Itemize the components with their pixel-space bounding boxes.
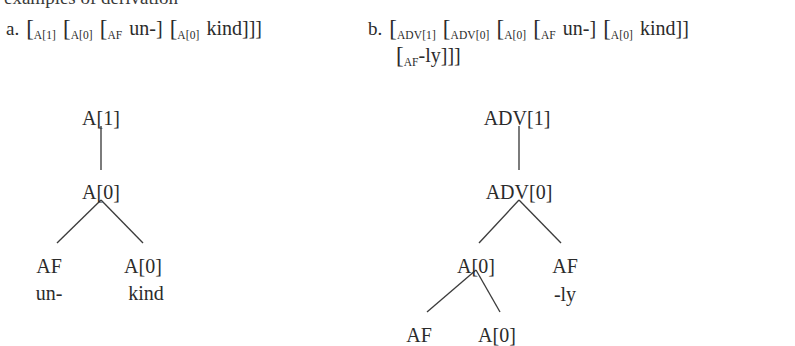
bracket-subscript-label: A[0]	[611, 29, 633, 41]
item-label-a: a.	[6, 18, 19, 39]
tree-branch-line	[519, 200, 561, 243]
open-bracket: [	[389, 16, 397, 41]
tree-node-b-af-ly: AF	[552, 256, 578, 276]
tree-branch-line	[57, 200, 101, 243]
tree-branch-line	[479, 200, 519, 243]
tree-node-a-root: A[1]	[82, 108, 120, 128]
bracket-subscript-label: A[0]	[504, 29, 526, 41]
page-heading: examples of derivation	[4, 0, 178, 7]
bracket-word: un-]	[563, 17, 596, 39]
tree-node-a-af: AF	[36, 256, 62, 276]
open-bracket: [	[100, 16, 108, 41]
bracket-word: kind]]]	[206, 17, 262, 39]
tree-node-b-root: ADV[1]	[484, 108, 551, 128]
tree-node-b-mid: ADV[0]	[486, 182, 553, 202]
open-bracket: [	[533, 16, 541, 41]
open-bracket: [	[63, 16, 71, 41]
bracket-notation-b-line2: [AF-ly]]]	[396, 41, 461, 76]
tree-node-b-af-un: AF	[406, 325, 432, 345]
open-bracket: [	[443, 16, 451, 41]
bracket-subscript-label: ADV[0]	[451, 29, 490, 41]
tree-leaf-a-af-word: un-	[36, 283, 63, 303]
bracket-sequence-b: [ADV[1][ADV[0][A[0][AFun-][A[0]kind]]	[389, 17, 689, 39]
tree-node-a-mid: A[0]	[82, 182, 120, 202]
open-bracket: [	[496, 16, 504, 41]
tree-node-a-adj: A[0]	[124, 256, 162, 276]
bracket-sequence-b-continued: [AF-ly]]]	[396, 44, 461, 66]
tree-node-b-adj: A[0]	[457, 256, 495, 276]
bracket-subscript-label: A[0]	[71, 29, 93, 41]
bracket-subscript-label: A[0]	[177, 29, 199, 41]
tree-node-b-adj2: A[0]	[478, 325, 516, 345]
bracket-subscript-label: AF	[107, 29, 122, 41]
tree-leaf-b-ly-word: -ly	[554, 284, 576, 304]
open-bracket: [	[26, 16, 34, 41]
bracket-word: kind]]	[640, 17, 689, 39]
bracket-subscript-label: AF	[404, 56, 419, 68]
bracket-subscript-label: A[1]	[34, 29, 56, 41]
bracket-sequence-a: [A[1][A[0][AFun-][A[0]kind]]]	[26, 17, 262, 39]
open-bracket: [	[603, 16, 611, 41]
bracket-word: -ly]]]	[419, 44, 461, 66]
tree-branch-line	[101, 200, 143, 243]
tree-leaf-a-adj-word: kind	[128, 283, 164, 303]
tree-branch-line	[476, 270, 500, 312]
bracket-subscript-label: AF	[541, 29, 556, 41]
bracket-word: un-]	[129, 17, 162, 39]
open-bracket: [	[170, 16, 178, 41]
item-label-b: b.	[368, 18, 382, 39]
tree-branch-line	[427, 270, 476, 312]
open-bracket: [	[396, 43, 404, 68]
bracket-notation-a: a.[A[1][A[0][AFun-][A[0]kind]]]	[6, 14, 262, 49]
bracket-subscript-label: ADV[1]	[397, 29, 436, 41]
